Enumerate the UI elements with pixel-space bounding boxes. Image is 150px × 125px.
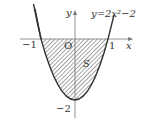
parabola-diagram: y y=2x²−2 −1 O 1 x S −2 xyxy=(0,0,150,125)
tick-label-neg1: −1 xyxy=(22,39,37,50)
x-axis-label: x xyxy=(126,40,132,51)
tick-label-neg2: −2 xyxy=(56,103,71,114)
origin-label: O xyxy=(64,40,72,51)
tick-label-pos1: 1 xyxy=(109,40,115,51)
y-axis-arrow-icon xyxy=(73,10,77,15)
y-axis-label: y xyxy=(65,7,72,18)
function-label: y=2x²−2 xyxy=(90,8,136,19)
region-label-s: S xyxy=(83,58,90,69)
